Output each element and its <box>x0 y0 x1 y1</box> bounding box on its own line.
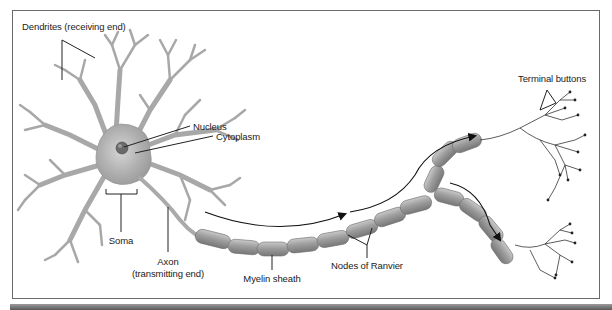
terminal-branches-upper <box>480 92 585 200</box>
bottom-band <box>10 304 612 310</box>
label-myelin-sheath: Myelin sheath <box>243 273 300 284</box>
terminal-branches-lower <box>515 224 575 278</box>
label-nodes-of-ranvier: Nodes of Ranvier <box>331 260 403 271</box>
signal-arrow-1 <box>205 212 345 227</box>
soma-body <box>96 124 151 185</box>
myelin-sheath <box>194 131 516 266</box>
label-cytoplasm: Cytoplasm <box>216 131 260 142</box>
nucleus <box>116 142 128 154</box>
label-soma: Soma <box>109 235 133 246</box>
label-dendrites: Dendrites (receiving end) <box>22 21 126 32</box>
label-terminal-buttons: Terminal buttons <box>518 73 586 84</box>
label-axon-sub: (transmitting end) <box>132 268 204 279</box>
neuron-diagram <box>0 0 612 310</box>
label-axon: Axon <box>157 256 178 267</box>
